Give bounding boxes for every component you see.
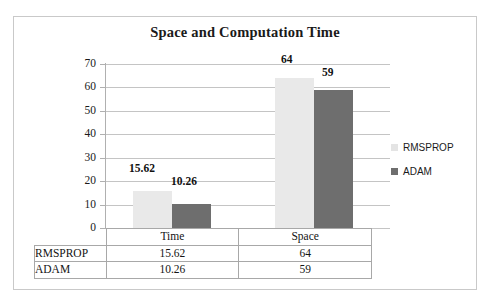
bar-rmsprop-space[interactable] [275, 78, 314, 228]
chart-legend: RMSPROP ADAM [391, 142, 475, 190]
table-cell-rmsprop-space: 64 [239, 245, 372, 262]
bar-adam-time[interactable] [172, 204, 211, 228]
table-row-label-rmsprop: RMSPROP [35, 245, 107, 262]
plot-area [105, 64, 390, 228]
table-header-space: Space [239, 229, 372, 246]
y-tick-label-10: 10 [62, 199, 96, 210]
data-label-adam-time: 10.26 [171, 175, 197, 187]
table-header-time: Time [106, 229, 239, 246]
chart-title: Space and Computation Time [60, 24, 430, 41]
data-label-rmsprop-space: 64 [281, 53, 293, 65]
legend-label-adam: ADAM [403, 166, 432, 177]
y-tick-label-60: 60 [62, 81, 96, 92]
table-row: ADAM 10.26 59 [35, 262, 372, 279]
chart-image: Space and Computation Time 70 60 50 40 3… [0, 0, 490, 303]
table-header-row: Time Space [35, 229, 372, 246]
bar-adam-space[interactable] [314, 90, 353, 228]
data-table: Time Space RMSPROP 15.62 64 ADAM 10.26 5… [34, 228, 372, 279]
data-label-adam-space: 59 [322, 66, 334, 78]
table-cell-adam-time: 10.26 [106, 262, 239, 279]
legend-label-rmsprop: RMSPROP [403, 142, 454, 153]
legend-swatch-icon-adam [391, 168, 398, 175]
y-tick-label-30: 30 [62, 152, 96, 163]
y-tick-label-20: 20 [62, 175, 96, 186]
data-label-rmsprop-time: 15.62 [129, 162, 155, 174]
bar-rmsprop-time[interactable] [133, 191, 172, 228]
legend-swatch-icon-rmsprop [391, 144, 398, 151]
y-tick-label-50: 50 [62, 105, 96, 116]
table-cell-adam-space: 59 [239, 262, 372, 279]
legend-item-adam[interactable]: ADAM [391, 166, 475, 177]
legend-item-rmsprop[interactable]: RMSPROP [391, 142, 475, 153]
table-cell-rmsprop-time: 15.62 [106, 245, 239, 262]
y-tick-label-70: 70 [62, 58, 96, 69]
table-row-label-adam: ADAM [35, 262, 107, 279]
table-corner-cell [35, 229, 107, 246]
y-tick-label-40: 40 [62, 128, 96, 139]
table-row: RMSPROP 15.62 64 [35, 245, 372, 262]
